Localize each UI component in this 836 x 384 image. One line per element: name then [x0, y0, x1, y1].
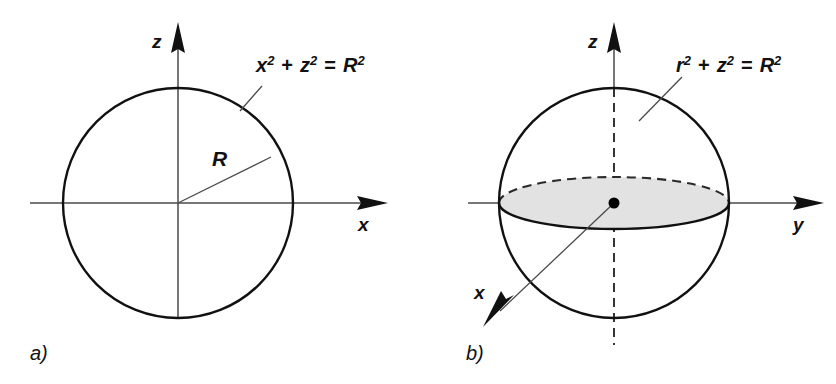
diagram-canvas: z x R x2+z2=R2 a) [0, 0, 836, 384]
eq-b-equals: = [741, 54, 753, 76]
eq-a-exp2: 2 [309, 53, 318, 68]
eq-a-plus: + [281, 54, 293, 76]
eq-b-exp2: 2 [726, 53, 735, 68]
eq-a-exp3: 2 [356, 53, 365, 68]
panel-b-caption: b) [466, 342, 484, 364]
panel-a-equation: x2+z2=R2 [255, 53, 365, 77]
x-axis-label: x [473, 282, 486, 303]
x-axis-arrowhead-icon [357, 196, 388, 210]
eq-a-var1: x [255, 54, 268, 76]
eq-a-var3: R [343, 54, 358, 76]
panel-a-z-axis [171, 22, 185, 318]
radius-label: R [212, 147, 228, 170]
y-axis-label: y [792, 214, 805, 235]
panel-a-caption: a) [30, 342, 48, 364]
panel-a: z x R x2+z2=R2 a) [30, 22, 388, 364]
z-axis-label: z [587, 31, 598, 52]
z-axis-arrowhead-icon [607, 22, 621, 53]
eq-a-var2: z [299, 54, 310, 76]
eq-b-exp1: 2 [683, 53, 692, 68]
z-axis-arrowhead-icon [171, 22, 185, 53]
equation-leader-line [639, 77, 682, 121]
eq-b-plus: + [698, 54, 710, 76]
panel-a-x-axis [30, 196, 388, 210]
eq-b-var3: R [760, 54, 775, 76]
eq-a-equals: = [324, 54, 336, 76]
y-axis-arrowhead-icon [793, 196, 824, 210]
eq-b-exp3: 2 [773, 53, 782, 68]
x-axis-arrowhead-icon [483, 291, 514, 327]
panel-b: z y x r2+z2=R2 b) [466, 22, 824, 364]
eq-b-var2: z [716, 54, 727, 76]
equation-leader-line [240, 86, 262, 111]
figure-root: z x R x2+z2=R2 a) [0, 0, 836, 384]
z-axis-label: z [151, 31, 162, 52]
eq-a-exp1: 2 [266, 53, 275, 68]
panel-b-equation: r2+z2=R2 [676, 53, 782, 77]
x-axis-label: x [357, 214, 370, 235]
origin-dot [609, 198, 620, 209]
